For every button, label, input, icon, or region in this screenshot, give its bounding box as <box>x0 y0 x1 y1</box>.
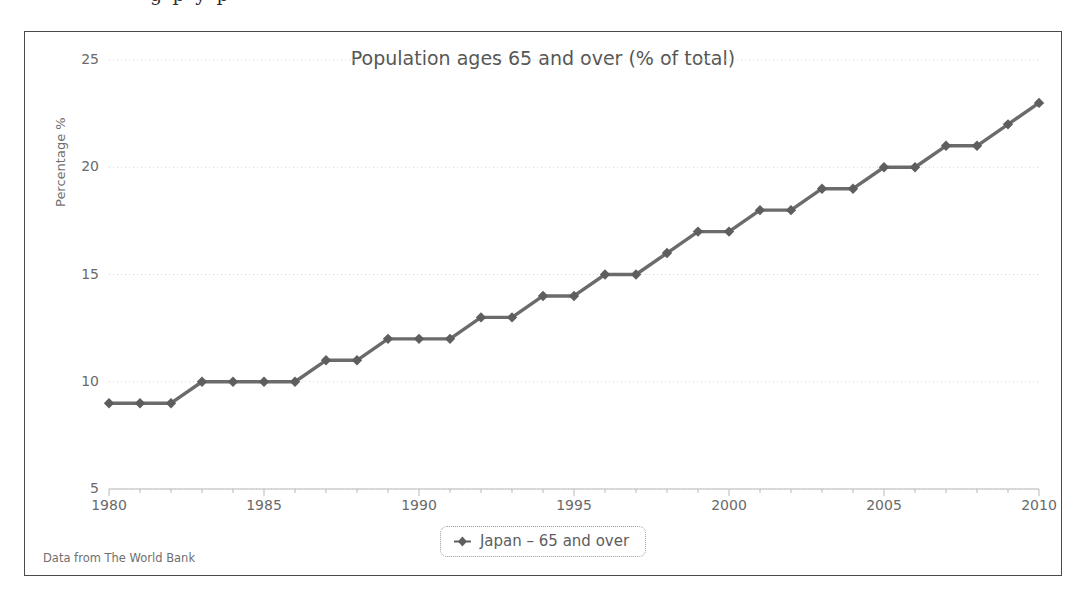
chart-legend[interactable]: Japan – 65 and over <box>440 526 646 557</box>
diamond-marker-icon <box>454 536 471 547</box>
x-tick-label: 2010 <box>1021 497 1057 513</box>
line-chart-svg <box>109 60 1039 489</box>
x-tick-label: 1980 <box>91 497 127 513</box>
x-tick-label: 2005 <box>866 497 902 513</box>
y-tick-label: 10 <box>53 373 99 389</box>
series-markers-japan-65-and-over <box>104 98 1044 409</box>
source-note: Data from The World Bank <box>43 551 195 565</box>
plot-area <box>109 60 1039 489</box>
page-top-bleed-text: g p y p <box>0 0 1088 20</box>
series-line-japan-65-and-over <box>109 103 1039 403</box>
x-tick-label: 2000 <box>711 497 747 513</box>
y-tick-label: 20 <box>53 158 99 174</box>
legend-label: Japan – 65 and over <box>480 532 629 550</box>
y-tick-label: 15 <box>53 266 99 282</box>
y-tick-label: 25 <box>53 51 99 67</box>
x-tick-label: 1995 <box>556 497 592 513</box>
x-tick-label: 1990 <box>401 497 437 513</box>
x-tick-label: 1985 <box>246 497 282 513</box>
y-tick-label: 5 <box>53 480 99 496</box>
gridlines <box>109 60 1039 489</box>
bleed-text: g p y p <box>150 0 231 5</box>
x-axis-minor-ticks <box>109 489 1039 496</box>
chart-card: Population ages 65 and over (% of total)… <box>24 31 1062 576</box>
